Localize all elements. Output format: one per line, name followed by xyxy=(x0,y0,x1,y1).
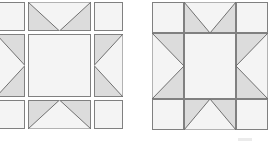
patch-flying-geese-right-r1c2 xyxy=(94,34,123,97)
patch-flying-geese-left-r1c0 xyxy=(152,33,184,99)
patch-center-square-r1c1 xyxy=(28,34,91,97)
corner-bottom-left-shape xyxy=(152,99,184,130)
patch-background xyxy=(0,101,25,129)
patch-corner-top-left-r0c0 xyxy=(0,2,25,31)
center-square-shape xyxy=(184,33,236,99)
corner-bottom-right-shape xyxy=(94,100,123,129)
patch-corner-bottom-left-r2c0 xyxy=(152,99,184,130)
patch-flying-geese-bottom-r2c1 xyxy=(28,100,91,129)
patch-background xyxy=(153,3,184,33)
corner-top-left-shape xyxy=(152,2,184,33)
patch-corner-bottom-left-r2c0 xyxy=(0,100,25,129)
flying-geese-bottom-shape xyxy=(184,99,236,130)
patch-background xyxy=(0,3,25,31)
patch-flying-geese-right-r1c2 xyxy=(236,33,268,99)
flying-geese-top-shape xyxy=(184,2,236,33)
flying-geese-right-shape xyxy=(236,33,268,99)
flying-geese-right-shape xyxy=(94,34,123,97)
patch-background xyxy=(185,34,236,99)
corner-bottom-left-shape xyxy=(0,100,25,129)
patch-background xyxy=(29,35,91,97)
patch-corner-top-left-r0c0 xyxy=(152,2,184,33)
flying-geese-top-shape xyxy=(28,2,91,31)
corner-bottom-right-shape xyxy=(236,99,268,130)
patch-corner-top-right-r0c2 xyxy=(94,2,123,31)
patch-background xyxy=(153,100,184,130)
patch-corner-bottom-right-r2c2 xyxy=(94,100,123,129)
assembled-block xyxy=(152,2,268,130)
patch-flying-geese-left-r1c0 xyxy=(0,34,25,97)
flying-geese-left-shape xyxy=(0,34,25,97)
patch-flying-geese-bottom-r2c1 xyxy=(184,99,236,130)
patch-corner-top-right-r0c2 xyxy=(236,2,268,33)
patch-corner-bottom-right-r2c2 xyxy=(236,99,268,130)
patch-flying-geese-top-r0c1 xyxy=(184,2,236,33)
corner-top-right-shape xyxy=(236,2,268,33)
patch-center-square-r1c1 xyxy=(184,33,236,99)
flying-geese-left-shape xyxy=(152,33,184,99)
patch-background xyxy=(95,3,123,31)
center-square-shape xyxy=(28,34,91,97)
exploded-block xyxy=(0,2,123,129)
patch-background xyxy=(95,101,123,129)
patch-background xyxy=(237,3,268,33)
patch-flying-geese-top-r0c1 xyxy=(28,2,91,31)
faint-smudge xyxy=(238,138,252,141)
flying-geese-bottom-shape xyxy=(28,100,91,129)
patch-background xyxy=(237,100,268,130)
corner-top-left-shape xyxy=(0,2,25,31)
corner-top-right-shape xyxy=(94,2,123,31)
